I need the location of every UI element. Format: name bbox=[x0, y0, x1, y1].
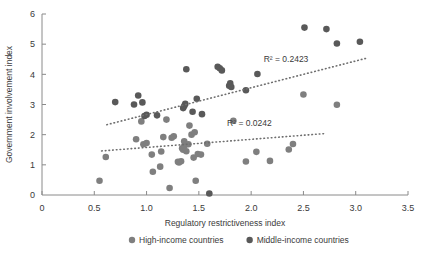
data-point bbox=[301, 24, 308, 31]
data-point bbox=[285, 146, 292, 153]
data-point bbox=[96, 178, 103, 185]
y-tick-label: 5 bbox=[30, 39, 35, 49]
data-point bbox=[206, 190, 213, 197]
data-point bbox=[112, 99, 119, 106]
data-point bbox=[219, 67, 226, 74]
data-point bbox=[102, 154, 109, 161]
data-point bbox=[198, 151, 205, 158]
y-tick-label: 3 bbox=[30, 100, 35, 110]
y-tick-label: 1 bbox=[30, 160, 35, 170]
data-point bbox=[133, 136, 140, 143]
data-point bbox=[170, 133, 177, 140]
y-axis-ticks: 0123456 bbox=[30, 9, 46, 200]
data-point bbox=[158, 148, 165, 155]
data-point bbox=[334, 40, 341, 47]
data-point bbox=[199, 111, 206, 118]
y-tick-label: 0 bbox=[30, 190, 35, 200]
data-point bbox=[135, 92, 142, 99]
data-point bbox=[149, 151, 156, 158]
x-tick-label: 3.5 bbox=[402, 203, 415, 213]
data-point bbox=[267, 158, 274, 165]
axes bbox=[42, 14, 408, 195]
r2-label-middle-income: R² = 0.2423 bbox=[264, 54, 309, 64]
data-point bbox=[163, 116, 170, 123]
y-tick-label: 4 bbox=[30, 70, 35, 80]
y-tick-label: 2 bbox=[30, 130, 35, 140]
data-point bbox=[166, 185, 173, 192]
data-point bbox=[228, 84, 235, 91]
legend-item-high-income[interactable]: High-income countries bbox=[129, 235, 224, 245]
data-point bbox=[139, 99, 146, 106]
chart-canvas: 00.51.01.52.02.53.03.5 0123456 R² = 0.24… bbox=[0, 0, 422, 253]
x-tick-label: 2.0 bbox=[245, 203, 258, 213]
trendline-middle-income bbox=[107, 58, 368, 125]
y-axis-title: Government involvement index bbox=[4, 45, 14, 163]
data-point bbox=[183, 66, 190, 73]
data-point bbox=[143, 140, 150, 147]
data-series bbox=[96, 24, 363, 197]
data-point bbox=[334, 102, 341, 109]
legend-item-middle-income[interactable]: Middle-income countries bbox=[246, 235, 348, 245]
r2-label-high-income: R² = 0.0242 bbox=[227, 118, 272, 128]
data-point bbox=[189, 108, 196, 115]
data-point bbox=[254, 71, 261, 78]
data-point bbox=[191, 129, 198, 136]
data-point bbox=[178, 158, 185, 165]
x-tick-label: 0.5 bbox=[88, 203, 101, 213]
data-point bbox=[160, 134, 167, 141]
legend-marker bbox=[129, 237, 135, 243]
x-tick-label: 1.0 bbox=[140, 203, 153, 213]
data-point bbox=[357, 38, 364, 45]
x-tick-label: 3.0 bbox=[349, 203, 362, 213]
legend-label: Middle-income countries bbox=[257, 235, 349, 245]
data-point bbox=[186, 122, 193, 129]
x-tick-label: 0 bbox=[39, 203, 44, 213]
legend-label: High-income countries bbox=[139, 235, 224, 245]
x-tick-label: 2.5 bbox=[297, 203, 310, 213]
x-axis-ticks: 00.51.01.52.02.53.03.5 bbox=[39, 191, 414, 213]
legend: High-income countriesMiddle-income count… bbox=[129, 235, 349, 245]
x-tick-label: 1.5 bbox=[193, 203, 206, 213]
y-tick-label: 6 bbox=[30, 9, 35, 19]
scatter-chart: 00.51.01.52.02.53.03.5 0123456 R² = 0.24… bbox=[0, 0, 422, 253]
data-point bbox=[253, 149, 260, 156]
data-point bbox=[290, 141, 297, 148]
data-point bbox=[183, 148, 190, 155]
data-point bbox=[154, 112, 161, 119]
data-point bbox=[131, 101, 138, 108]
data-point bbox=[300, 91, 307, 98]
data-point bbox=[157, 163, 164, 170]
series-middle-income bbox=[112, 24, 363, 197]
data-point bbox=[323, 26, 330, 33]
x-axis-title: Regulatory restrictiveness index bbox=[165, 218, 286, 228]
data-point bbox=[243, 158, 250, 165]
legend-marker bbox=[246, 237, 252, 243]
data-point bbox=[150, 168, 157, 175]
data-point bbox=[192, 178, 199, 185]
